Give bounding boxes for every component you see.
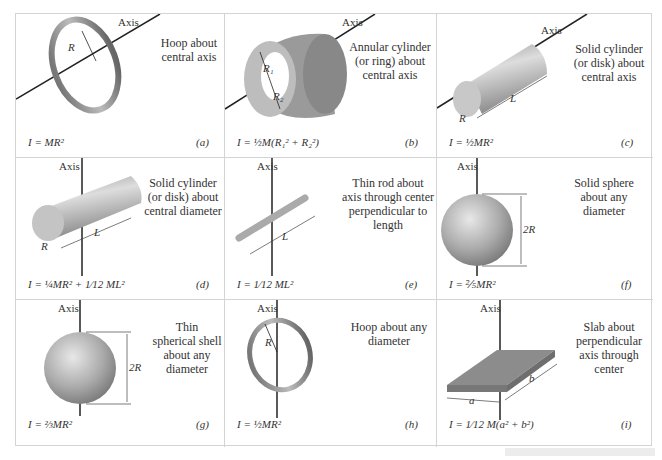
desc-line: (or disk) about [567,56,651,70]
desc-line: Slab about [569,320,649,334]
desc-line: Thin [149,320,225,334]
desc-line: perpendicular to [340,204,436,218]
desc-line: central axis [567,70,651,84]
dim-l: L [94,226,100,238]
desc-line: axis through [569,348,649,362]
panel-e: Axis L Thin rod about axis through cente… [225,158,437,300]
dim-2r: 2R [523,223,535,235]
formula: I = ½M(R₁² + R₂²) [237,136,319,148]
desc-line: spherical shell [149,334,225,348]
panel-h-description: Hoop about any diameter [345,320,433,348]
desc-line: Hoop about [154,36,224,50]
panel-tag: (c) [621,136,633,148]
panel-f: Axis 2R Solid sphere about any diameter … [437,158,653,300]
dim-2r: 2R [129,361,141,373]
panel-tag: (a) [196,136,209,148]
panel-b-description: Annular cylinder (or ring) about central… [345,40,435,82]
axis-label: Axis [118,16,139,28]
panel-d: Axis R L Solid cylinder (or disk) about … [16,158,225,300]
dim-l: L [510,92,516,104]
desc-line: (or disk) about [141,190,225,204]
panel-i: Axis a b Slab about perpendicular axis t… [437,300,653,447]
desc-line: Hoop about any [345,320,433,334]
desc-line: Annular cylinder [345,40,435,54]
formula: I = 1⁄12 M(a² + b²) [449,418,534,430]
desc-line: central axis [154,50,224,64]
formula: I = ⅔MR² [28,418,72,430]
panel-g-description: Thin spherical shell about any diameter [149,320,225,376]
desc-line: central diameter [141,204,225,218]
panel-b: Axis R₁ R₂ Annular cylinder (or ring) ab… [225,14,437,158]
formula: I = ½MR² [237,418,281,430]
desc-line: Solid cylinder [567,42,651,56]
panel-h: Axis R Hoop about any diameter I = ½MR² … [225,300,437,447]
formula: I = 1⁄12 ML² [237,278,293,290]
bottom-strip [505,448,655,456]
dim-r: R [265,336,272,348]
dim-l: L [282,230,288,242]
axis-label: Axis [257,302,278,314]
panel-tag: (d) [196,278,209,290]
panel-c-description: Solid cylinder (or disk) about central a… [567,42,651,84]
axis-label: Axis [480,302,501,314]
desc-line: perpendicular [569,334,649,348]
panel-g: Axis 2R Thin spherical shell about any d… [16,300,225,447]
desc-line: diameter [567,204,641,218]
desc-line: length [340,218,436,232]
dim-r: R [459,112,466,124]
panel-tag: (g) [196,418,209,430]
axis-label: Axis [59,160,80,172]
panel-i-description: Slab about perpendicular axis through ce… [569,320,649,376]
panel-a-description: Hoop about central axis [154,36,224,64]
panel-d-description: Solid cylinder (or disk) about central d… [141,176,225,218]
panel-tag: (b) [405,136,418,148]
dim-r: R [68,41,75,53]
desc-line: Thin rod about [340,176,436,190]
axis-label: Axis [58,302,79,314]
desc-line: center [569,362,649,376]
axis-label: Axis [342,16,363,28]
desc-line: diameter [149,362,225,376]
panel-a: Axis R Hoop about central axis I = MR² (… [16,14,225,158]
panel-tag: (e) [405,278,417,290]
desc-line: axis through center [340,190,436,204]
dim-r: R [41,240,48,252]
panel-e-description: Thin rod about axis through center perpe… [340,176,436,232]
dim-r1: R₁ [263,62,274,74]
panel-f-description: Solid sphere about any diameter [567,176,641,218]
desc-line: Solid cylinder [141,176,225,190]
panel-c: Axis R L Solid cylinder (or disk) about … [437,14,653,158]
desc-line: about any [149,348,225,362]
formula: I = ⅖MR² [449,278,495,291]
panel-tag: (f) [621,278,631,290]
formula: I = ¼MR² + 1⁄12 ML² [28,278,125,290]
desc-line: Solid sphere [567,176,641,190]
panel-tag: (i) [621,418,631,430]
dim-b: b [529,372,535,384]
formula: I = ½MR² [449,136,493,148]
desc-line: (or ring) about [345,54,435,68]
dim-r2: R₂ [273,90,284,102]
desc-line: about any [567,190,641,204]
panel-tag: (h) [405,418,418,430]
desc-line: diameter [345,334,433,348]
formula: I = MR² [28,136,64,148]
dim-a: a [469,394,475,406]
figure-grid: Axis R Hoop about central axis I = MR² (… [15,13,652,446]
desc-line: central axis [345,68,435,82]
axis-label: Axis [457,160,478,172]
axis-label: Axis [257,160,278,172]
axis-label: Axis [541,24,562,36]
